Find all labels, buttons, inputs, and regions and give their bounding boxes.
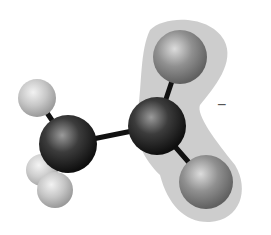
oxygen-atom-1 bbox=[153, 30, 207, 84]
carbon-atom-methyl bbox=[39, 115, 97, 173]
negative-charge-label: − bbox=[217, 97, 226, 113]
acetate-molecule-diagram bbox=[0, 0, 271, 235]
hydrogen-atom-1 bbox=[18, 79, 56, 117]
carbon-atom-carboxyl bbox=[128, 97, 186, 155]
hydrogen-atom-3 bbox=[37, 172, 73, 208]
oxygen-atom-2 bbox=[179, 155, 233, 209]
